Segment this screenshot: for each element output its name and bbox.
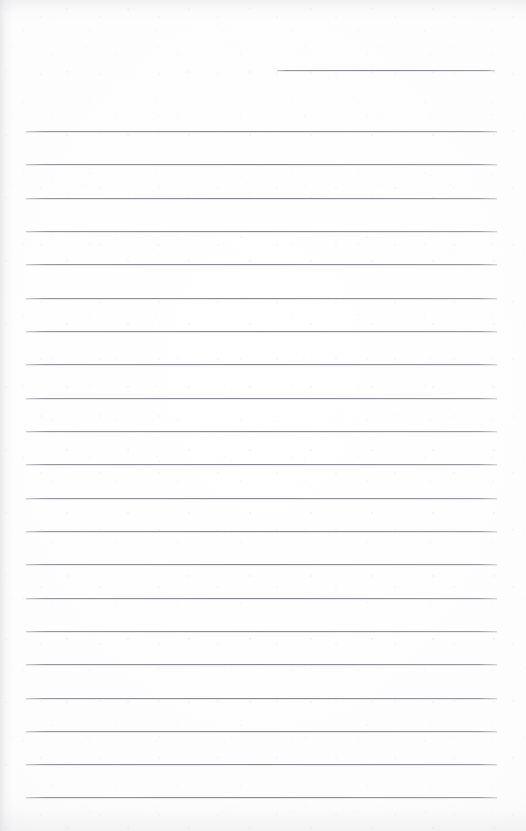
body-rule-line <box>26 231 497 232</box>
body-rule-line <box>26 331 497 332</box>
body-rule-line <box>26 398 497 399</box>
left-edge-scan-shadow <box>0 0 13 831</box>
body-rule-line <box>26 298 497 299</box>
body-rule-line <box>26 731 497 732</box>
body-rule-line <box>26 664 497 665</box>
body-rule-line <box>26 698 497 699</box>
body-rule-line <box>26 531 497 532</box>
body-rule-line <box>26 764 497 765</box>
body-rule-line <box>26 198 497 199</box>
body-rule-line <box>26 164 497 165</box>
body-rule-line <box>26 464 497 465</box>
body-rule-line <box>26 431 497 432</box>
body-rule-line <box>26 264 497 265</box>
lined-paper-page <box>0 0 526 831</box>
top-edge-scan-shadow <box>0 0 526 22</box>
body-rule-line <box>26 364 497 365</box>
header-rule <box>277 70 495 71</box>
body-rule-line <box>26 598 497 599</box>
body-rule-line <box>26 564 497 565</box>
body-rule-line <box>26 131 497 132</box>
body-rule-line <box>26 797 497 798</box>
body-rule-line <box>26 631 497 632</box>
body-rule-line <box>26 498 497 499</box>
paper-grain-texture <box>0 0 526 831</box>
